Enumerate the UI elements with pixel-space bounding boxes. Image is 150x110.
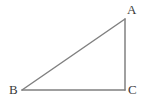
vertex-label-c: C	[128, 83, 137, 96]
triangle-figure: A B C	[0, 0, 150, 110]
vertex-label-b: B	[9, 83, 18, 96]
hypotenuse-AB-line	[22, 19, 125, 90]
vertex-label-a: A	[127, 3, 136, 16]
